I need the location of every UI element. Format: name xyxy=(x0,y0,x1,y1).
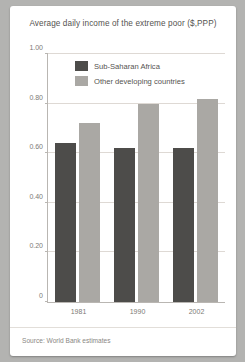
chart-card: Average daily income of the extreme poor… xyxy=(10,6,236,356)
y-axis-tick-label: 1.00 xyxy=(29,44,43,51)
y-axis-tick-label: 0 xyxy=(39,292,43,299)
y-axis-tick-label: 0.40 xyxy=(29,192,43,199)
bar xyxy=(138,104,159,302)
y-axis-tick-label: 0.60 xyxy=(29,143,43,150)
bar xyxy=(173,148,194,302)
bar-group xyxy=(55,54,100,302)
bar-group xyxy=(173,54,218,302)
footer-divider xyxy=(10,327,236,328)
bar xyxy=(55,143,76,302)
bar-group xyxy=(114,54,159,302)
bar xyxy=(79,123,100,302)
bar xyxy=(197,99,218,302)
plot-area: 00.200.400.600.801.00 198119902002 xyxy=(47,54,225,303)
bar xyxy=(114,148,135,302)
source-note: Source: World Bank estimates xyxy=(22,337,111,344)
x-axis-tick-label: 1981 xyxy=(71,308,87,315)
bars-layer xyxy=(48,54,225,302)
y-axis-tick-label: 0.80 xyxy=(29,93,43,100)
x-axis-tick-label: 1990 xyxy=(130,308,146,315)
chart-title: Average daily income of the extreme poor… xyxy=(10,19,236,28)
x-axis-tick-label: 2002 xyxy=(189,308,205,315)
y-axis-tick-label: 0.20 xyxy=(29,242,43,249)
